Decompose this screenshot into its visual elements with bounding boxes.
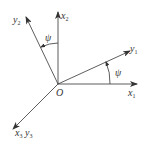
- label-x3y3: x3 y3: [15, 128, 32, 139]
- angle-arc-upper: [41, 43, 58, 47]
- label-x2: x2: [61, 11, 68, 22]
- label-psi-lower: ψ: [115, 68, 121, 78]
- label-psi-upper: ψ: [45, 33, 51, 43]
- coordinate-diagram: [0, 0, 146, 148]
- axis-y2: [26, 17, 58, 84]
- angle-arc-lower: [106, 62, 110, 84]
- label-x1: x1: [128, 88, 135, 99]
- label-y1: y1: [130, 44, 137, 55]
- label-y2: y2: [13, 15, 20, 26]
- label-origin: O: [56, 88, 63, 98]
- axis-x3y3: [13, 84, 58, 129]
